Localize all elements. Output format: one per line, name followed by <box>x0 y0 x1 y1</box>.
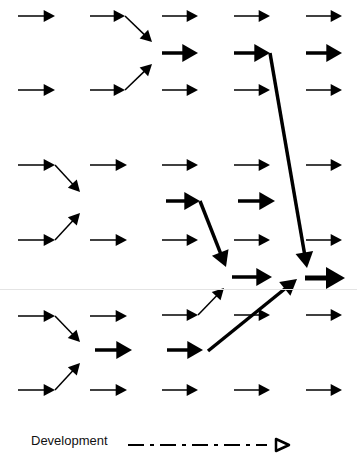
arrowhead-icon <box>259 84 270 96</box>
arrowhead-icon <box>326 44 342 62</box>
arrowhead-icon <box>331 159 342 171</box>
arrow <box>125 64 152 90</box>
arrow <box>238 192 275 210</box>
arrowhead-icon <box>187 84 198 96</box>
arrowhead-icon <box>187 309 198 321</box>
arrow <box>18 84 55 96</box>
arrow <box>162 309 198 321</box>
arrow <box>162 10 198 22</box>
arrow <box>18 234 55 246</box>
divider-line <box>0 289 357 290</box>
arrowhead-icon <box>187 384 198 396</box>
arrow-shaft <box>270 53 305 254</box>
arrow <box>55 165 80 192</box>
arrow <box>234 384 270 396</box>
arrow <box>270 53 313 268</box>
arrow <box>232 268 272 286</box>
arrow-shaft <box>125 71 145 90</box>
arrow-shaft <box>125 16 145 35</box>
arrowhead-icon <box>116 341 132 359</box>
arrow-diagram <box>0 0 357 463</box>
arrow <box>162 234 198 246</box>
arrow <box>90 84 125 96</box>
arrow <box>306 44 342 62</box>
arrowhead-icon <box>44 159 55 171</box>
arrow <box>200 201 229 267</box>
arrowhead-icon <box>116 234 127 246</box>
arrow <box>306 384 342 396</box>
arrow-shaft <box>55 221 73 240</box>
arrowhead-icon <box>44 84 55 96</box>
arrow <box>306 10 342 22</box>
legend-open-arrowhead-icon <box>276 439 289 451</box>
arrow <box>306 159 342 171</box>
arrow <box>125 16 152 42</box>
arrow <box>90 10 125 22</box>
arrowhead-icon <box>114 10 125 22</box>
arrow <box>162 384 198 396</box>
legend-label: Development <box>31 433 108 448</box>
arrowhead-icon <box>187 159 198 171</box>
arrow <box>162 84 198 96</box>
arrowhead-icon <box>256 268 272 286</box>
arrowhead-icon <box>44 234 55 246</box>
arrow <box>18 10 55 22</box>
arrowhead-icon <box>116 159 127 171</box>
arrowhead-icon <box>259 10 270 22</box>
arrow <box>234 44 270 62</box>
arrowhead-icon <box>116 310 127 322</box>
arrow-shaft <box>55 316 73 335</box>
arrowhead-icon <box>44 310 55 322</box>
arrow <box>18 310 55 322</box>
arrow <box>90 310 127 322</box>
arrow <box>305 267 345 289</box>
arrowhead-icon <box>331 309 342 321</box>
arrowhead-icon <box>259 192 275 210</box>
arrow <box>90 234 127 246</box>
arrow <box>234 234 270 246</box>
arrow <box>55 213 80 240</box>
arrowhead-icon <box>184 192 200 210</box>
arrowhead-icon <box>296 251 314 268</box>
arrow-shaft <box>200 201 221 253</box>
arrow <box>234 159 270 171</box>
arrowhead-icon <box>182 44 198 62</box>
arrowhead-icon <box>114 84 125 96</box>
arrowhead-icon <box>331 84 342 96</box>
arrowhead-icon <box>331 10 342 22</box>
arrow <box>162 44 198 62</box>
arrow <box>55 316 80 342</box>
arrow <box>90 384 127 396</box>
arrow <box>18 159 55 171</box>
arrowhead-icon <box>187 10 198 22</box>
arrow-shaft <box>198 295 217 315</box>
arrow-group <box>18 10 345 396</box>
arrow-shaft <box>55 371 73 390</box>
arrowhead-icon <box>44 384 55 396</box>
arrow <box>90 159 127 171</box>
arrowhead-icon <box>116 384 127 396</box>
arrow <box>55 363 80 390</box>
arrow <box>167 341 203 359</box>
arrow <box>95 341 132 359</box>
arrow-shaft <box>55 165 73 184</box>
arrow <box>166 192 200 210</box>
legend-symbol <box>128 439 289 451</box>
arrow <box>306 309 342 321</box>
arrowhead-icon <box>44 10 55 22</box>
arrowhead-icon <box>187 234 198 246</box>
arrow <box>234 84 270 96</box>
arrow <box>306 234 342 246</box>
arrow <box>18 384 55 396</box>
arrowhead-icon <box>187 341 203 359</box>
arrowhead-icon <box>254 44 270 62</box>
arrowhead-icon <box>259 234 270 246</box>
arrow <box>234 10 270 22</box>
arrowhead-icon <box>331 384 342 396</box>
arrow <box>198 288 224 315</box>
arrowhead-icon <box>259 384 270 396</box>
arrowhead-icon <box>326 267 345 289</box>
arrowhead-icon <box>331 234 342 246</box>
arrow <box>306 84 342 96</box>
arrow <box>162 159 198 171</box>
